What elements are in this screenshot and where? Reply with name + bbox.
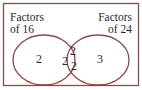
set-label-right-line1: Factors [98,11,132,23]
set-label-right-line2: of 24 [108,23,132,35]
left-only-value: 2 [36,53,42,65]
set-label-left-line1: Factors [10,11,44,23]
set-label-left-line2: of 16 [10,23,34,35]
right-only-value: 3 [97,53,103,65]
intersection-value-2: 2 [62,55,68,67]
intersection-value-1: 2 [70,45,76,57]
intersection-value-3: 2 [71,60,77,72]
